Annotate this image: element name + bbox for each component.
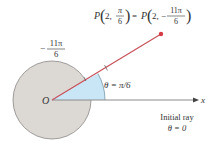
angle-label: θ = π/6 bbox=[104, 80, 131, 90]
origin-label: O bbox=[42, 95, 49, 106]
rhs-paren-close: ) bbox=[186, 7, 191, 25]
point-p bbox=[159, 32, 163, 36]
lhs-num: π bbox=[118, 6, 123, 15]
rhs-num: 11π bbox=[170, 6, 182, 15]
axis-x-label: x bbox=[200, 95, 205, 105]
rhs-sign: − bbox=[161, 11, 166, 21]
initial-ray-theta: θ = 0 bbox=[168, 123, 187, 133]
neg-angle-num: 11π bbox=[50, 38, 63, 48]
equals-sign: = bbox=[132, 11, 137, 21]
rhs-r: 2, bbox=[152, 11, 159, 21]
x-axis-arrow-icon bbox=[193, 98, 199, 103]
neg-angle-sign: − bbox=[40, 43, 45, 53]
initial-ray-label: Initial ray bbox=[160, 112, 194, 122]
lhs-r: 2, bbox=[105, 11, 112, 21]
point-label: P ( 2, π 6 ) = P ( 2, − 11π 6 ) bbox=[93, 6, 191, 26]
neg-angle-den: 6 bbox=[54, 49, 58, 59]
polar-diagram: O θ = π/6 x Initial ray θ = 0 − 11π 6 P … bbox=[0, 0, 218, 148]
lhs-paren-close: ) bbox=[125, 7, 130, 25]
rhs-den: 6 bbox=[174, 17, 178, 26]
lhs-den: 6 bbox=[118, 17, 122, 26]
